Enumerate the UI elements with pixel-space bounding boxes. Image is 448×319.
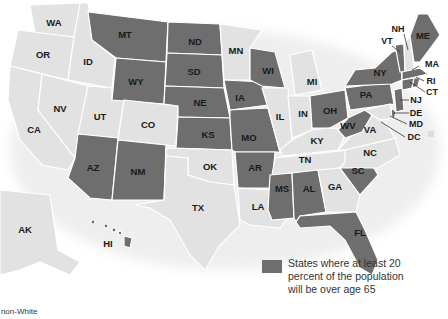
label-ND: ND — [188, 36, 202, 47]
label-WY: WY — [128, 76, 144, 87]
label-WI: WI — [262, 65, 274, 76]
label-NM: NM — [131, 166, 146, 177]
label-NC: NC — [363, 147, 377, 158]
label-IL: IL — [276, 111, 285, 122]
footnote-fragment: r non-White — [0, 307, 37, 316]
label-KY: KY — [310, 135, 324, 146]
label-IA: IA — [235, 92, 245, 103]
state-MS[interactable] — [268, 173, 294, 220]
label-MI: MI — [307, 76, 318, 87]
state-RI[interactable] — [412, 78, 420, 88]
label-IN: IN — [298, 108, 308, 119]
label-TN: TN — [299, 154, 312, 165]
legend-label: States where at least 20 percent of the … — [288, 257, 418, 296]
label-VT: VT — [381, 36, 393, 46]
label-AL: AL — [303, 183, 316, 194]
label-CO: CO — [141, 119, 155, 130]
dc-marker — [428, 131, 434, 137]
label-MT: MT — [118, 29, 132, 40]
label-NH: NH — [392, 24, 405, 34]
label-DE: DE — [410, 108, 423, 118]
label-DC: DC — [408, 132, 421, 142]
label-ME: ME — [416, 30, 430, 41]
label-OR: OR — [36, 49, 50, 60]
label-NE: NE — [193, 97, 206, 108]
label-CT: CT — [426, 87, 438, 97]
label-TX: TX — [192, 202, 205, 213]
label-SC: SC — [351, 165, 364, 176]
label-WA: WA — [46, 17, 61, 28]
label-FL: FL — [354, 227, 366, 238]
label-AR: AR — [248, 162, 262, 173]
label-MD: MD — [409, 119, 423, 129]
label-NV: NV — [53, 103, 67, 114]
label-VA: VA — [364, 124, 377, 135]
label-MN: MN — [229, 45, 244, 56]
label-CA: CA — [27, 124, 41, 135]
label-LA: LA — [252, 201, 265, 212]
label-RI: RI — [427, 76, 436, 86]
label-SD: SD — [187, 66, 200, 77]
legend-swatch — [262, 260, 282, 273]
label-GA: GA — [328, 181, 342, 192]
label-OK: OK — [203, 161, 217, 172]
label-AK: AK — [18, 224, 32, 235]
label-WV: WV — [340, 120, 356, 131]
label-AZ: AZ — [87, 162, 100, 173]
label-NY: NY — [373, 67, 387, 78]
label-PA: PA — [360, 89, 373, 100]
label-MA: MA — [425, 59, 439, 69]
label-HI: HI — [103, 238, 113, 249]
label-OH: OH — [323, 105, 337, 116]
label-MO: MO — [241, 132, 256, 143]
label-NJ: NJ — [410, 95, 422, 105]
label-ID: ID — [83, 56, 93, 67]
label-KS: KS — [201, 129, 214, 140]
label-UT: UT — [94, 111, 107, 122]
label-MS: MS — [275, 183, 289, 194]
